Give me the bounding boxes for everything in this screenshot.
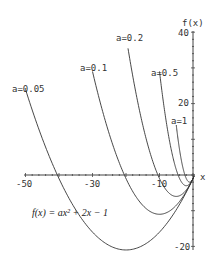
x-tick-neg50: -50 — [16, 179, 32, 189]
series-label-a1: a=1 — [171, 116, 187, 126]
x-axis-label: x — [200, 172, 206, 182]
curves — [26, 48, 195, 250]
y-tick-40: 40 — [178, 28, 189, 38]
series-label-a01: a=0.1 — [80, 63, 107, 73]
curve-a005 — [26, 89, 195, 250]
x-tick-neg30: -30 — [84, 179, 100, 189]
series-label-a05: a=0.5 — [151, 68, 178, 78]
formula-annotation: f(x) = ax² + 2x − 1 — [32, 207, 108, 219]
chart: f(x) x 40 20 -20 -50 -30 -10 a=0.05 a=0.… — [0, 0, 216, 274]
y-tick-neg20: -20 — [174, 242, 190, 252]
curve-a1 — [176, 125, 194, 182]
series-label-a005: a=0.05 — [12, 84, 45, 94]
series-label-a02: a=0.2 — [116, 33, 143, 43]
y-axis-label: f(x) — [182, 18, 204, 28]
y-tick-20: 20 — [178, 98, 189, 108]
